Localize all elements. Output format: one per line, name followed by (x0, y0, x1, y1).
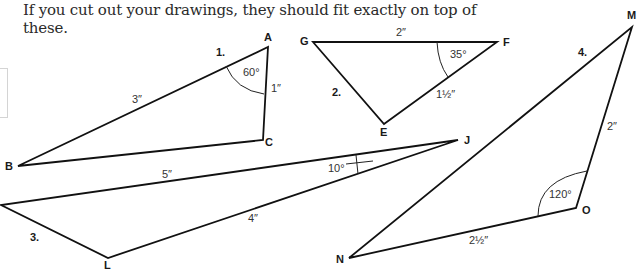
triangle-3: J L 3. 5″ 10° 4″ (1, 134, 470, 271)
triangle-3-side-long-label: 5″ (162, 168, 172, 180)
vertex-B-label: B (5, 160, 13, 172)
triangle-1-shape (18, 47, 268, 166)
triangle-3-angle-arc (356, 155, 358, 174)
vertex-C-label: C (265, 136, 273, 148)
triangle-4-shape (349, 27, 632, 258)
triangle-2-side-GF-label: 2″ (396, 26, 406, 38)
triangle-2-shape (313, 42, 497, 124)
triangle-4-side-NO-label: 2½″ (469, 234, 488, 246)
triangle-1-side-AB-label: 3″ (132, 93, 142, 105)
triangle-1-number: 1. (216, 46, 225, 58)
triangle-2-angle-arc (437, 42, 448, 77)
triangle-1-angle-label: 60° (243, 66, 260, 78)
triangle-3-angle-label: 10° (328, 162, 345, 174)
vertex-O-label: O (582, 204, 591, 216)
vertex-G-label: G (300, 35, 309, 47)
vertex-E-label: E (380, 126, 387, 138)
vertex-F-label: F (503, 36, 510, 48)
triangle-3-shape (1, 140, 458, 258)
triangles-diagram: 1. A C B 60° 1″ 3″ G F E 2. 2″ 35° 1½″ J… (0, 0, 642, 271)
triangle-2-angle-label: 35° (450, 48, 467, 60)
triangle-3-number: 3. (30, 231, 39, 243)
triangle-4-side-MO-label: 2″ (607, 120, 617, 132)
triangle-2-number: 2. (332, 86, 341, 98)
triangle-1-side-AC-label: 1″ (271, 82, 281, 94)
triangle-4-number: 4. (578, 46, 587, 58)
vertex-M-label: M (627, 9, 636, 21)
vertex-A-label: A (264, 31, 272, 43)
triangle-2-side-EF-label: 1½″ (436, 88, 455, 100)
triangle-1: 1. A C B 60° 1″ 3″ (5, 31, 281, 172)
triangle-3-angle-tick (346, 161, 373, 164)
triangle-4-angle-label: 120° (549, 188, 572, 200)
triangle-3-side-JL-label: 4″ (248, 212, 258, 224)
vertex-J-label: J (464, 134, 470, 146)
vertex-N-label: N (336, 253, 344, 265)
triangle-2: G F E 2. 2″ 35° 1½″ (300, 26, 510, 138)
vertex-L-label: L (104, 259, 111, 271)
